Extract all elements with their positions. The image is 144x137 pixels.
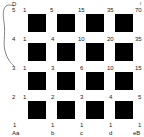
- lattice-value: 1: [23, 94, 26, 100]
- grid-square: [86, 14, 104, 32]
- column-label-aa: Aa: [12, 130, 19, 136]
- lattice-value: 6: [80, 65, 83, 71]
- lattice-value: 3: [51, 65, 54, 71]
- grid-square: [57, 14, 75, 32]
- grid-square: [57, 72, 75, 90]
- lattice-value: 1: [51, 122, 54, 128]
- row-label-3: 3: [12, 65, 15, 71]
- column-label-c: c: [80, 130, 83, 136]
- lattice-value: 1: [23, 7, 26, 13]
- lattice-value: 35: [135, 36, 142, 42]
- grid-square: [115, 14, 133, 32]
- row-label-4: 4: [12, 36, 15, 42]
- lattice-value: 3: [80, 94, 83, 100]
- grid-square: [28, 101, 46, 119]
- lattice-value: 10: [107, 65, 114, 71]
- column-label-d: d: [109, 130, 112, 136]
- lattice-value: 1: [13, 122, 16, 128]
- grid-square: [86, 43, 104, 61]
- lattice-value: 4: [109, 94, 112, 100]
- grid-square: [86, 101, 104, 119]
- lattice-value: 1: [138, 122, 141, 128]
- column-label-b: b: [51, 130, 54, 136]
- grid-square: [86, 72, 104, 90]
- lattice-value: 4: [51, 36, 54, 42]
- grid-square: [115, 72, 133, 90]
- grid-square: [57, 43, 75, 61]
- grid-square: [57, 101, 75, 119]
- lattice-value: 10: [78, 36, 85, 42]
- grid-square: [28, 72, 46, 90]
- lattice-value: 2: [51, 94, 54, 100]
- curved-arrow-icon: [0, 0, 20, 75]
- lattice-value: 5: [50, 7, 53, 13]
- lattice-value: 5: [138, 94, 141, 100]
- grid-square: [28, 14, 46, 32]
- grid-square: [28, 43, 46, 61]
- lattice-value: 15: [135, 65, 142, 71]
- lattice-value: 70: [135, 7, 142, 13]
- grid-square: [115, 101, 133, 119]
- lattice-value: 15: [78, 7, 85, 13]
- grid-square: [115, 43, 133, 61]
- lattice-value: 1: [23, 65, 26, 71]
- column-label-eb: eB: [133, 130, 140, 136]
- lattice-value: 1: [80, 122, 83, 128]
- lattice-value: 1: [109, 122, 112, 128]
- row-label-2: 2: [12, 94, 15, 100]
- lattice-value: 20: [107, 36, 114, 42]
- row-label-5: 5: [12, 7, 15, 13]
- lattice-value: 35: [107, 7, 114, 13]
- lattice-value: 1: [23, 36, 26, 42]
